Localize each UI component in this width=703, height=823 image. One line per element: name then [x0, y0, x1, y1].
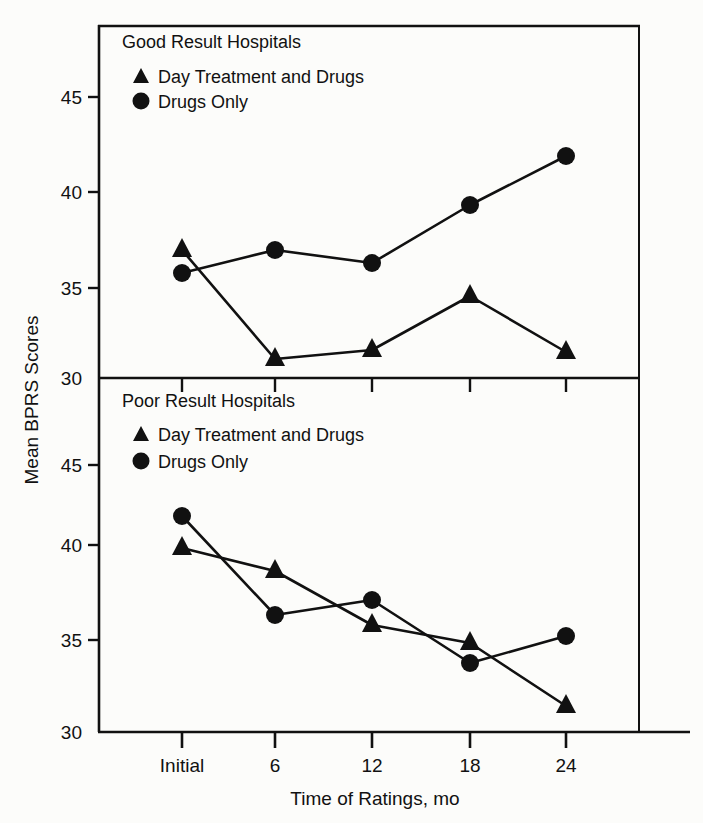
- x-axis-title: Time of Ratings, mo: [290, 788, 459, 809]
- top-legend-label-drugs-only: Drugs Only: [158, 92, 248, 112]
- bottom-legend-label-drugs-only: Drugs Only: [158, 452, 248, 472]
- top-panel-x-ticks: [182, 378, 566, 392]
- bottom-panel-title: Poor Result Hospitals: [122, 391, 295, 411]
- bottom-series-day-treatment-and-drugs: [172, 536, 576, 713]
- bottom-series-drugs-only: [173, 507, 575, 672]
- x-tick-label-12: 12: [361, 755, 382, 776]
- bottom-y-tick-label-35: 35: [61, 630, 82, 651]
- bottom-y-tick-label-40: 40: [61, 535, 82, 556]
- chart-page: 45 40 35 30 Good Result Hospitals Day Tr…: [0, 0, 703, 823]
- top-y-tick-label-35: 35: [61, 278, 82, 299]
- top-legend-label-day-treatment: Day Treatment and Drugs: [158, 67, 364, 87]
- bottom-y-tick-label-45: 45: [61, 455, 82, 476]
- bottom-legend-triangle-marker: [133, 426, 149, 441]
- data-point: [172, 238, 192, 257]
- data-point: [461, 196, 479, 214]
- data-point: [557, 147, 575, 165]
- top-legend-circle-marker: [133, 93, 150, 110]
- top-y-tick-label-45: 45: [61, 87, 82, 108]
- data-point: [172, 536, 192, 555]
- data-point: [460, 284, 480, 303]
- bottom-legend-circle-marker: [133, 453, 150, 470]
- data-point: [173, 264, 191, 282]
- x-tick-label-18: 18: [459, 755, 480, 776]
- data-point: [266, 241, 284, 259]
- top-legend-triangle-marker: [133, 68, 149, 83]
- top-series-drugs-only: [173, 147, 575, 282]
- top-panel-title: Good Result Hospitals: [122, 32, 301, 52]
- bottom-y-tick-label-30: 30: [61, 722, 82, 743]
- data-point: [363, 591, 381, 609]
- bottom-panel-y-ticks: [88, 465, 99, 640]
- bottom-legend-label-day-treatment: Day Treatment and Drugs: [158, 425, 364, 445]
- data-point: [363, 254, 381, 272]
- x-tick-label-6: 6: [270, 755, 281, 776]
- data-point: [266, 606, 284, 624]
- top-panel-y-ticks: [88, 97, 99, 288]
- y-axis-title: Mean BPRS Scores: [21, 316, 42, 485]
- bottom-panel-x-ticks: [182, 732, 566, 748]
- data-point: [461, 654, 479, 672]
- two-panel-line-chart: 45 40 35 30 Good Result Hospitals Day Tr…: [0, 0, 703, 823]
- data-point: [556, 694, 576, 713]
- top-y-tick-label-40: 40: [61, 182, 82, 203]
- data-point: [173, 507, 191, 525]
- data-point: [556, 340, 576, 359]
- x-tick-label-initial: Initial: [160, 755, 204, 776]
- data-point: [557, 627, 575, 645]
- top-y-tick-label-30: 30: [61, 368, 82, 389]
- x-tick-label-24: 24: [555, 755, 577, 776]
